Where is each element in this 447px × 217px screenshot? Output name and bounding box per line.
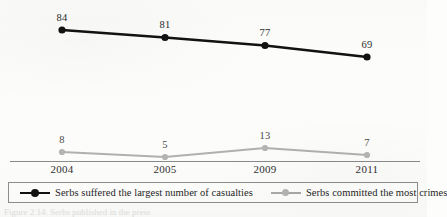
value-label-crimes-2009: 13 [260, 130, 271, 141]
value-label-casualties-2011: 69 [362, 39, 373, 50]
chart-legend: Serbs suffered the largest number of cas… [8, 182, 418, 203]
legend-marker-casualties-icon [20, 188, 50, 198]
x-tick-label-2009: 2009 [253, 163, 276, 175]
data-point-casualties-2004 [58, 26, 65, 33]
figure-caption: Figure 2.14. Serbs published in the pres… [4, 209, 151, 217]
line-chart-svg [0, 0, 427, 180]
value-label-casualties-2009: 77 [260, 27, 271, 38]
value-label-crimes-2011: 7 [364, 137, 369, 148]
value-label-casualties-2005: 81 [160, 19, 171, 30]
data-point-crimes-2005 [162, 154, 168, 160]
data-point-crimes-2011 [364, 152, 370, 158]
legend-entry-casualties: Serbs suffered the largest number of cas… [20, 183, 253, 202]
figure-caption-strip: Figure 2.14. Serbs published in the pres… [0, 209, 427, 217]
legend-label-crimes: Serbs committed the most crimes [306, 187, 447, 198]
value-label-crimes-2004: 8 [59, 134, 64, 145]
x-tick-label-2005: 2005 [153, 163, 176, 175]
data-point-casualties-2011 [363, 53, 370, 60]
x-tick-label-2004: 2004 [50, 163, 73, 175]
data-point-crimes-2009 [262, 145, 268, 151]
data-point-crimes-2004 [59, 149, 65, 155]
data-point-casualties-2005 [161, 34, 168, 41]
data-point-casualties-2009 [261, 42, 268, 49]
legend-entry-crimes: Serbs committed the most crimes [271, 183, 447, 202]
value-label-casualties-2004: 84 [57, 12, 68, 23]
legend-label-casualties: Serbs suffered the largest number of cas… [55, 187, 253, 198]
plot-area: 84 81 77 69 8 5 13 7 2004 2005 2009 2011 [0, 0, 427, 180]
series-line-casualties [62, 30, 367, 57]
value-label-crimes-2005: 5 [162, 139, 167, 150]
x-tick-label-2011: 2011 [356, 163, 379, 175]
legend-marker-crimes-icon [271, 188, 301, 198]
series-line-crimes [62, 148, 367, 157]
